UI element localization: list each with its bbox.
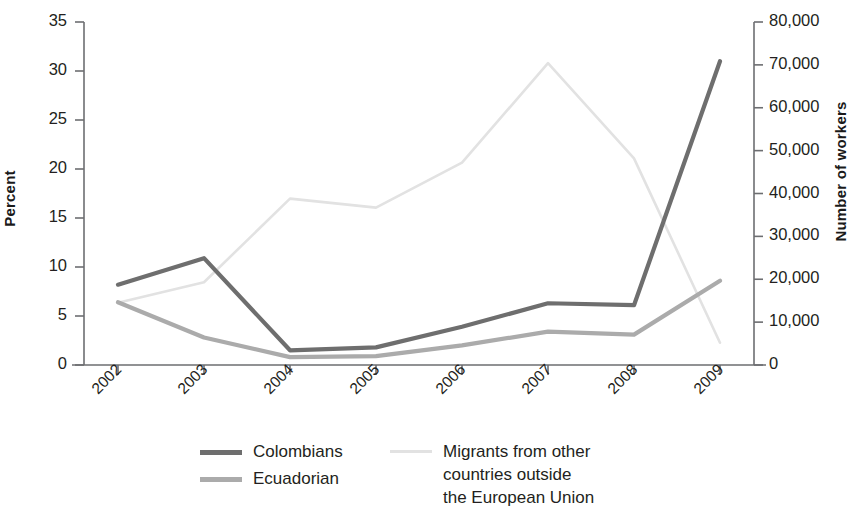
legend-item-ecuadorian: Ecuadorian [200,467,343,490]
left-tick-label: 25 [21,109,67,128]
right-tick-label: 10,000 [769,311,849,330]
right-tick-label: 40,000 [769,183,849,202]
legend-column-right: Migrants from other countries outside th… [390,440,594,512]
legend-column-left: Colombians Ecuadorian [200,440,343,494]
left-tick-label: 10 [21,256,67,275]
right-tick-label: 0 [769,354,849,373]
axis-lines [72,22,766,365]
left-tick-label: 30 [21,60,67,79]
right-tick-label: 70,000 [769,54,849,73]
legend-label-other-migrants: Migrants from other countries outside th… [443,440,594,509]
chart-legend: Colombians Ecuadorian Migrants from othe… [200,440,800,512]
plot-area [0,0,849,512]
left-tick-label: 0 [21,354,67,373]
left-tick-label: 15 [21,207,67,226]
left-tick-label: 20 [21,158,67,177]
left-tick-label: 5 [21,305,67,324]
legend-swatch-other-migrants [390,450,432,453]
legend-item-colombians: Colombians [200,440,343,463]
right-tick-label: 20,000 [769,268,849,287]
right-axis-tick-marks [754,22,763,365]
legend-label-colombians: Colombians [253,440,343,463]
left-axis-tick-marks [75,22,84,365]
legend-label-ecuadorian: Ecuadorian [253,467,339,490]
right-tick-label: 30,000 [769,225,849,244]
legend-item-other-migrants: Migrants from other countries outside th… [390,440,594,509]
left-axis-title: Percent [1,149,18,249]
right-tick-label: 50,000 [769,140,849,159]
right-tick-label: 60,000 [769,97,849,116]
series-lines [118,61,720,357]
left-tick-label: 35 [21,11,67,30]
legend-swatch-ecuadorian [200,477,242,482]
right-tick-label: 80,000 [769,11,849,30]
line-chart: Percent Number of workers 05101520253035… [0,0,849,512]
legend-swatch-colombians [200,450,242,455]
